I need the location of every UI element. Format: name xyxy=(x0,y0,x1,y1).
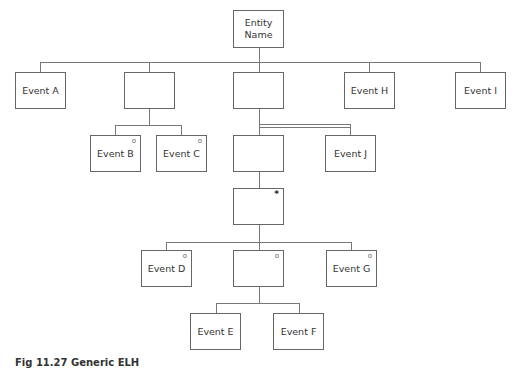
event-e-label: Event E xyxy=(197,326,233,338)
connector xyxy=(259,225,260,242)
figure-caption: Fig 11.27 Generic ELH xyxy=(15,357,139,368)
event-f-box: Event F xyxy=(273,313,324,350)
event-d-label: Event D xyxy=(148,263,186,275)
event-g-label: Event G xyxy=(333,263,371,275)
connector xyxy=(40,62,41,72)
connector xyxy=(299,303,300,313)
connector xyxy=(149,62,150,72)
connector xyxy=(351,242,352,250)
connector xyxy=(259,48,260,62)
connector xyxy=(216,303,217,313)
event-a-box: Event A xyxy=(15,72,66,109)
event-g-box: o Event G xyxy=(326,250,377,287)
selection-marker: o xyxy=(368,253,372,260)
event-e-box: Event E xyxy=(190,313,241,350)
connector xyxy=(181,125,182,135)
event-i-box: Event I xyxy=(455,72,506,109)
parallel-connector-bottom xyxy=(259,127,351,128)
event-b-box: o Event B xyxy=(90,135,141,172)
event-j-box: Event J xyxy=(325,135,376,172)
iteration-box: * xyxy=(233,188,284,225)
connector xyxy=(115,125,182,126)
selection-marker: o xyxy=(275,253,279,260)
parallel-connector-top xyxy=(259,124,351,125)
connector xyxy=(369,62,370,72)
event-i-label: Event I xyxy=(464,85,497,97)
connector xyxy=(350,124,351,135)
connector xyxy=(259,109,260,135)
event-c-label: Event C xyxy=(163,148,200,160)
root-entity-box: Entity Name xyxy=(233,10,284,48)
connector xyxy=(40,62,481,63)
event-b-label: Event B xyxy=(97,148,134,160)
event-f-label: Event F xyxy=(281,326,317,338)
root-label-line2: Name xyxy=(244,29,272,41)
selection-marker: o xyxy=(132,138,136,145)
connector xyxy=(259,172,260,188)
sequence-box-left xyxy=(124,72,175,109)
selection-box-level4: o xyxy=(233,250,284,287)
iteration-marker: * xyxy=(274,191,279,198)
event-h-box: Event H xyxy=(344,72,395,109)
root-label-line1: Entity xyxy=(244,17,272,29)
connector xyxy=(259,62,260,72)
connector xyxy=(166,242,167,250)
connector xyxy=(149,109,150,125)
connector xyxy=(259,287,260,303)
selection-marker: o xyxy=(198,138,202,145)
event-d-box: o Event D xyxy=(141,250,192,287)
connector xyxy=(115,125,116,135)
connector xyxy=(480,62,481,72)
selection-marker: o xyxy=(183,253,187,260)
event-j-label: Event J xyxy=(334,148,367,160)
sequence-box-level2 xyxy=(233,135,284,172)
event-c-box: o Event C xyxy=(156,135,207,172)
event-a-label: Event A xyxy=(22,85,59,97)
connector xyxy=(216,303,300,304)
connector xyxy=(259,242,260,250)
sequence-box-middle xyxy=(233,72,284,109)
event-h-label: Event H xyxy=(351,85,388,97)
